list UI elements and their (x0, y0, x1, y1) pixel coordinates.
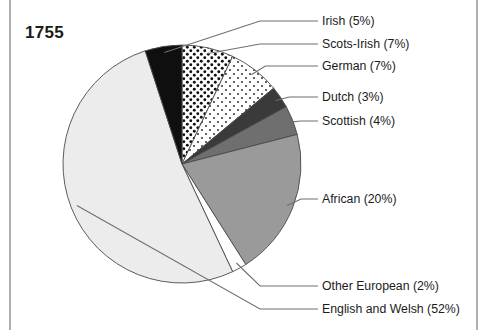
pie-label-english-and-welsh: English and Welsh (52%) (322, 303, 460, 315)
pie-slices (63, 45, 301, 283)
leader-line-german (251, 66, 318, 75)
pie-label-dutch: Dutch (3%) (322, 91, 384, 103)
chart-canvas: 1755 Scots-Irish (7%)German (7%)Dutch (3… (0, 0, 486, 330)
pie-label-african: African (20%) (322, 193, 397, 205)
pie-label-scots-irish: Scots-Irish (7%) (322, 38, 409, 50)
pie-label-german: German (7%) (322, 60, 396, 72)
pie-label-other-european: Other European (2%) (322, 280, 439, 292)
pie-label-irish: Irish (5%) (322, 15, 375, 27)
leader-line-other-european (236, 263, 318, 286)
chart-title: 1755 (25, 23, 64, 43)
pie-label-scottish: Scottish (4%) (322, 115, 395, 127)
